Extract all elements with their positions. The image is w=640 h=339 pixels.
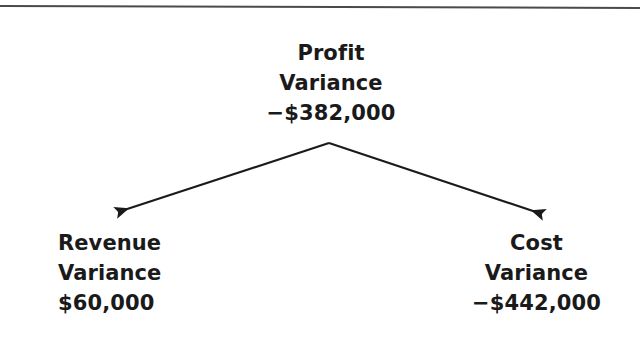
- arrow-to-cost-variance: [329, 143, 542, 214]
- node-profit-variance-label-line-1: Profit: [231, 38, 431, 68]
- node-revenue-variance: Revenue Variance $60,000: [58, 228, 248, 318]
- node-revenue-variance-label-line-1: Revenue: [58, 228, 248, 258]
- node-cost-variance: Cost Variance −$442,000: [453, 228, 620, 318]
- node-revenue-variance-label-line-2: Variance: [58, 258, 248, 288]
- node-profit-variance-value: −$382,000: [231, 98, 431, 128]
- arrow-to-revenue-variance: [118, 143, 329, 212]
- node-profit-variance: Profit Variance −$382,000: [231, 38, 431, 128]
- figure-canvas: Profit Variance −$382,000 Revenue Varian…: [0, 0, 640, 339]
- node-cost-variance-value: −$442,000: [453, 288, 620, 318]
- node-profit-variance-label-line-2: Variance: [231, 68, 431, 98]
- node-cost-variance-label-line-1: Cost: [453, 228, 620, 258]
- node-cost-variance-label-line-2: Variance: [453, 258, 620, 288]
- node-revenue-variance-value: $60,000: [58, 288, 248, 318]
